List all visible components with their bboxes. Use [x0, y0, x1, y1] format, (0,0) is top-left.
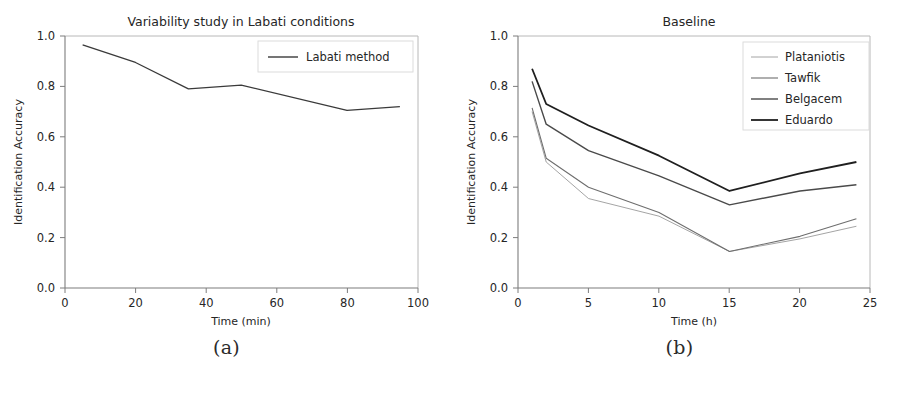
chart-b-ylabel: Identification Accuracy: [465, 99, 478, 225]
chart-b-ytick-3: 0.6: [490, 130, 508, 144]
chart-a-xtick-0: 0: [61, 296, 68, 310]
chart-a-legend: Labati method: [258, 41, 413, 72]
figure-page: Variability study in Labati conditions 0…: [0, 0, 906, 393]
chart-b-legend-label-3: Eduardo: [785, 113, 833, 127]
chart-a-ytick-4: 0.8: [37, 79, 55, 93]
chart-b-ytick-4: 0.8: [490, 79, 508, 93]
chart-b-legend-label-0: Plataniotis: [785, 50, 845, 64]
chart-a-xtick-3: 60: [269, 296, 284, 310]
chart-b-xtick-5: 25: [863, 296, 878, 310]
chart-a-axes: [65, 36, 418, 288]
chart-b-legend: Plataniotis Tawfik Belgacem Eduardo: [743, 42, 869, 130]
chart-a-xtick-5: 100: [407, 296, 429, 310]
chart-b-ytick-0: 0.0: [490, 281, 508, 295]
chart-a-x-ticks: 0 20 40 60 80 100: [61, 288, 429, 310]
chart-a-xlabel: Time (min): [210, 315, 271, 328]
chart-b-xtick-3: 15: [722, 296, 737, 310]
chart-b-xtick-2: 10: [651, 296, 666, 310]
figure-b-caption: (b): [453, 336, 906, 358]
chart-b-title: Baseline: [663, 14, 716, 29]
chart-b-legend-label-2: Belgacem: [785, 92, 842, 106]
chart-a-ylabel: Identification Accuracy: [12, 99, 25, 225]
chart-a-xtick-4: 80: [340, 296, 355, 310]
chart-a-y-ticks: 0.0 0.2 0.4 0.6 0.8 1.0: [37, 29, 65, 295]
chart-a-ytick-5: 1.0: [37, 29, 55, 43]
chart-b-ytick-2: 0.4: [490, 180, 508, 194]
chart-a-xtick-1: 20: [128, 296, 143, 310]
chart-a-xtick-2: 40: [199, 296, 214, 310]
chart-b: Baseline 0 5 10 15 20 25: [453, 0, 906, 330]
chart-a-ytick-1: 0.2: [37, 231, 55, 245]
chart-b-y-ticks: 0.0 0.2 0.4 0.6 0.8 1.0: [490, 29, 518, 295]
chart-a-title: Variability study in Labati conditions: [127, 14, 354, 29]
chart-b-x-ticks: 0 5 10 15 20 25: [514, 288, 877, 310]
chart-a-legend-label-0: Labati method: [306, 50, 390, 64]
chart-b-xtick-0: 0: [514, 296, 521, 310]
chart-b-xtick-1: 5: [585, 296, 592, 310]
chart-a: Variability study in Labati conditions 0…: [0, 0, 453, 330]
figure-b: Baseline 0 5 10 15 20 25: [453, 0, 906, 393]
chart-b-ytick-1: 0.2: [490, 231, 508, 245]
figure-a-caption: (a): [0, 336, 453, 358]
chart-b-ytick-5: 1.0: [490, 29, 508, 43]
figure-a: Variability study in Labati conditions 0…: [0, 0, 453, 393]
chart-b-xtick-4: 20: [792, 296, 807, 310]
chart-b-xlabel: Time (h): [670, 315, 717, 328]
chart-a-ytick-2: 0.4: [37, 180, 55, 194]
chart-a-ytick-0: 0.0: [37, 281, 55, 295]
chart-a-ytick-3: 0.6: [37, 130, 55, 144]
chart-b-legend-label-1: Tawfik: [784, 71, 821, 85]
